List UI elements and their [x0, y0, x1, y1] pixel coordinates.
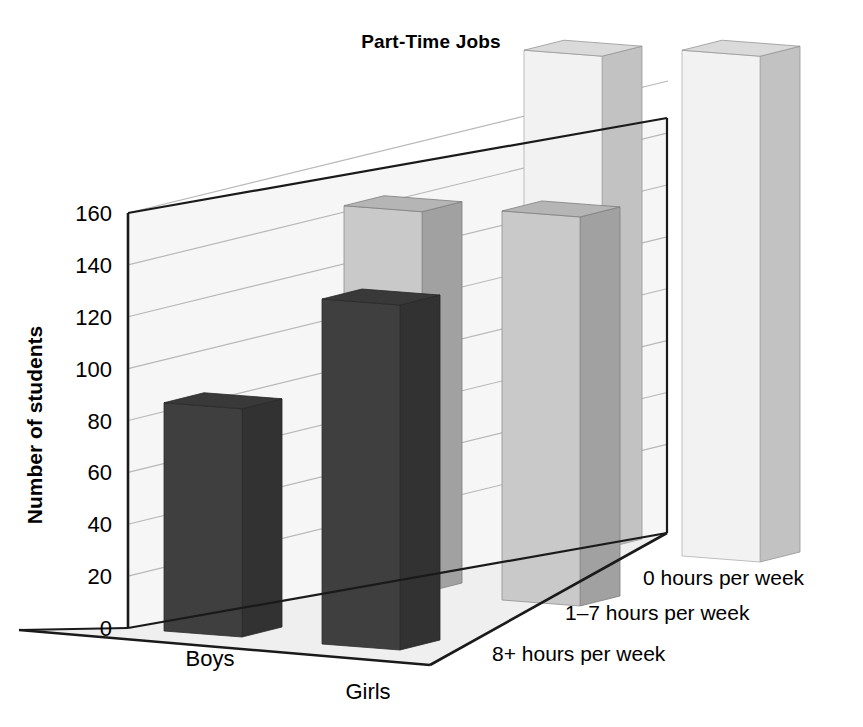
y-tick-label-40: 40: [88, 512, 112, 537]
y-tick-label-80: 80: [88, 409, 112, 434]
depth-label-8-plus-hours: 8+ hours per week: [492, 642, 666, 665]
chart-container: Part-Time Jobs 020406080100120140160 Num…: [0, 0, 863, 727]
bar-front-face: [682, 50, 760, 562]
y-tick-label-120: 120: [75, 305, 112, 330]
y-tick-label-140: 140: [75, 253, 112, 278]
bar-boys-series-0: [164, 393, 282, 637]
y-axis-title: Number of students: [23, 326, 46, 524]
depth-label-0-hours: 0 hours per week: [643, 566, 805, 589]
bar-girls-series-2: [682, 40, 800, 562]
x-category-label-boys: Boys: [186, 646, 235, 671]
chart-title: Part-Time Jobs: [361, 31, 501, 52]
bar-side-face: [760, 46, 800, 562]
y-tick-label-60: 60: [88, 460, 112, 485]
y-tick-label-100: 100: [75, 357, 112, 382]
bar-girls-series-0: [322, 289, 440, 650]
y-tick-label-20: 20: [88, 564, 112, 589]
y-tick-label-160: 160: [75, 201, 112, 226]
x-category-label-girls: Girls: [345, 679, 390, 704]
y-axis-title-group: Number of students: [23, 326, 46, 524]
part-time-jobs-3d-bar-chart: Part-Time Jobs 020406080100120140160 Num…: [0, 0, 863, 727]
depth-label-1-7-hours: 1–7 hours per week: [565, 601, 750, 624]
bar-side-face: [580, 207, 620, 606]
bar-side-face: [400, 295, 440, 650]
bar-front-face: [164, 403, 242, 637]
bar-front-face: [322, 299, 400, 650]
y-tick-label-0: 0: [100, 616, 112, 641]
bar-front-face: [502, 211, 580, 606]
